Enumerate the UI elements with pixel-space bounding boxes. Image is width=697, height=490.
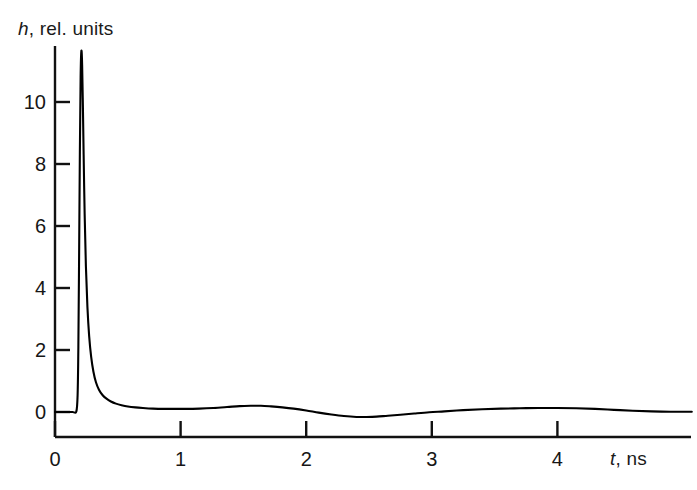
x-tick-group: 01234: [49, 421, 563, 470]
y-tick-label: 8: [35, 153, 46, 175]
y-tick-group: 0246810: [24, 91, 70, 423]
x-tick-label: 1: [175, 448, 186, 470]
axis-lines: [55, 46, 691, 437]
y-tick-label: 10: [24, 91, 46, 113]
x-tick-label: 0: [49, 448, 60, 470]
x-tick-label: 4: [552, 448, 563, 470]
y-tick-label: 6: [35, 215, 46, 237]
y-tick-label: 2: [35, 339, 46, 361]
chart-figure: h, rel. units t, ns 0246810 01234: [0, 0, 697, 490]
plot-area: 0246810 01234: [0, 0, 697, 490]
y-tick-label: 0: [35, 401, 46, 423]
y-tick-label: 4: [35, 277, 46, 299]
x-tick-label: 2: [301, 448, 312, 470]
x-tick-label: 3: [426, 448, 437, 470]
data-series-line: [55, 50, 692, 417]
